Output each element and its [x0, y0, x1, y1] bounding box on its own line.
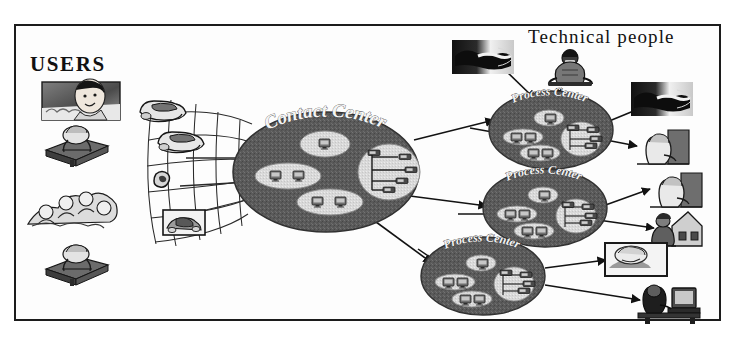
- technical-people-label: Technical people: [528, 26, 675, 48]
- process-center-1-hit-area[interactable]: [489, 91, 613, 169]
- users-label: USERS: [30, 52, 106, 77]
- process-center-3-hit-area[interactable]: [421, 237, 545, 315]
- process-center-2-hit-area[interactable]: [483, 169, 607, 247]
- diagram-canvas: USERS Technical people: [0, 0, 749, 338]
- contact-center-hit-area[interactable]: [233, 112, 419, 232]
